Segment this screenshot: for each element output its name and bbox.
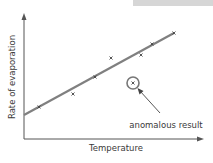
- best-fit-line: [24, 33, 174, 115]
- data-point-x-icon: [132, 82, 135, 85]
- data-point-x-icon: [72, 93, 75, 96]
- annotation-label: anomalous result: [129, 120, 203, 130]
- data-point-x-icon: [140, 54, 143, 57]
- y-axis-label: Rate of evaporation: [7, 35, 17, 119]
- x-axis-arrow-icon: [197, 137, 204, 142]
- scatter-chart: anomalous result Temperature Rate of eva…: [0, 0, 213, 163]
- x-axis-label: Temperature: [88, 143, 143, 153]
- y-axis-arrow-icon: [22, 13, 27, 20]
- anomalous-point: [127, 77, 139, 89]
- data-point-x-icon: [110, 57, 113, 60]
- annotation-arrow: [138, 88, 161, 113]
